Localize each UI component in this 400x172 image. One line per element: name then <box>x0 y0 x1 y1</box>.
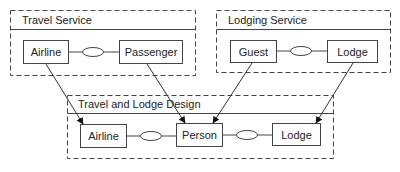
package-travel-service: Travel Service Airline Passenger <box>11 11 196 76</box>
class-airline-design[interactable]: Airline <box>81 125 127 148</box>
class-guest[interactable]: Guest <box>231 41 277 63</box>
association-airline-passenger <box>69 48 120 57</box>
association-person-lodge <box>223 131 273 140</box>
class-lodge[interactable]: Lodge <box>328 41 378 63</box>
package-title: Lodging Service <box>228 14 307 26</box>
class-person[interactable]: Person <box>177 124 223 147</box>
mapping-arrows <box>46 63 353 124</box>
package-title: Travel Service <box>22 14 92 26</box>
diagram-canvas: Travel Service Airline Passenger Lodging… <box>0 0 400 172</box>
class-airline[interactable]: Airline <box>24 41 69 64</box>
arrow-passenger-to-person <box>147 64 185 123</box>
class-label: Lodge <box>281 129 312 141</box>
class-label: Airline <box>31 46 62 58</box>
class-label: Passenger <box>125 46 178 58</box>
association-oval-icon <box>237 131 258 140</box>
class-label: Airline <box>88 130 119 142</box>
package-lodging-service: Lodging Service Guest Lodge <box>217 11 391 73</box>
class-passenger[interactable]: Passenger <box>120 41 183 64</box>
association-oval-icon <box>83 48 104 57</box>
class-lodge-design[interactable]: Lodge <box>273 124 321 146</box>
association-oval-icon <box>291 47 312 56</box>
package-title: Travel and Lodge Design <box>78 98 201 110</box>
association-airline-person <box>127 132 177 141</box>
package-travel-and-lodge-design: Travel and Lodge Design Airline Person L… <box>68 96 334 159</box>
class-label: Guest <box>239 46 268 58</box>
class-label: Lodge <box>337 46 368 58</box>
association-oval-icon <box>141 132 162 141</box>
association-guest-lodge <box>277 47 328 56</box>
class-label: Person <box>182 129 217 141</box>
arrow-airline-to-airline <box>46 64 83 124</box>
